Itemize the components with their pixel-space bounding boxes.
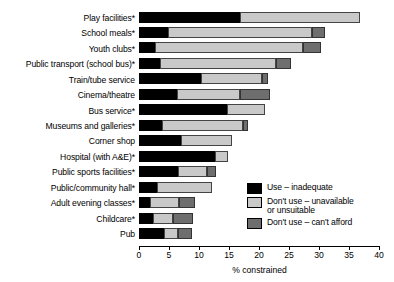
category-label: Hospital (with A&E)* xyxy=(0,152,135,162)
bar-row xyxy=(139,56,379,71)
legend-swatch xyxy=(247,197,262,208)
bar-row xyxy=(139,87,379,102)
bar-segment xyxy=(139,42,155,53)
legend-item: Don't use – unavailable or unsuitable xyxy=(247,197,391,216)
bar-segment xyxy=(139,120,162,131)
bar-segment xyxy=(139,27,168,38)
bar-row xyxy=(139,103,379,118)
bar-segment xyxy=(276,58,291,69)
bar-segment xyxy=(179,197,195,208)
bar-row xyxy=(139,10,379,25)
bar-segment xyxy=(139,197,150,208)
x-axis-title: % constrained xyxy=(139,265,380,275)
category-label: Pub xyxy=(0,229,135,239)
bar-segment xyxy=(215,151,228,162)
bar-segment xyxy=(139,89,177,100)
stacked-bar-chart: Play facilities*School meals*Youth clubs… xyxy=(0,0,394,282)
bar-row xyxy=(139,118,379,133)
bar-segment xyxy=(312,27,325,38)
category-label: Train/tube service xyxy=(0,75,135,85)
legend-label: Don't use – can't afford xyxy=(267,218,352,228)
legend-swatch xyxy=(247,218,262,229)
bar-segment xyxy=(139,213,153,224)
bar-segment xyxy=(227,104,265,115)
x-axis-tick-label: 0 xyxy=(124,250,154,261)
x-axis-tick-label: 15 xyxy=(214,250,244,261)
bar-row xyxy=(139,165,379,180)
category-label: Public/community hall* xyxy=(0,183,135,193)
category-label: Public transport (school bus)* xyxy=(0,59,135,69)
legend-label: Don't use – unavailable or unsuitable xyxy=(267,197,354,216)
bar-segment xyxy=(303,42,320,53)
bar-segment xyxy=(240,12,360,23)
x-axis-tick-label: 25 xyxy=(274,250,304,261)
x-axis-tick-label: 40 xyxy=(364,250,394,261)
x-axis-tick-label: 20 xyxy=(244,250,274,261)
bar-row xyxy=(139,149,379,164)
category-label: Corner shop xyxy=(0,136,135,146)
chart-legend: Use – inadequateDon't use – unavailable … xyxy=(247,183,391,232)
bar-row xyxy=(139,41,379,56)
bar-segment xyxy=(157,182,212,193)
category-label: Youth clubs* xyxy=(0,44,135,54)
category-label: Adult evening classes* xyxy=(0,198,135,208)
bar-segment xyxy=(155,42,303,53)
bar-segment xyxy=(240,89,270,100)
category-label: School meals* xyxy=(0,28,135,38)
bar-segment xyxy=(139,73,201,84)
bar-segment xyxy=(207,166,216,177)
bar-segment xyxy=(168,27,312,38)
bar-row xyxy=(139,25,379,40)
bar-segment xyxy=(139,58,160,69)
bar-segment xyxy=(139,12,240,23)
legend-item: Don't use – can't afford xyxy=(247,218,391,229)
category-label: Public sports facilities* xyxy=(0,167,135,177)
bar-segment xyxy=(139,151,215,162)
category-label: Play facilities* xyxy=(0,13,135,23)
bar-segment xyxy=(139,228,164,239)
bar-segment xyxy=(177,89,240,100)
category-label: Museums and galleries* xyxy=(0,121,135,131)
bar-segment xyxy=(150,197,179,208)
bar-segment xyxy=(178,228,192,239)
bar-row xyxy=(139,72,379,87)
bar-segment xyxy=(139,166,178,177)
bar-segment xyxy=(262,73,268,84)
bar-segment xyxy=(162,120,243,131)
bar-segment xyxy=(139,182,157,193)
bar-segment xyxy=(139,135,181,146)
category-label: Bus service* xyxy=(0,106,135,116)
bar-segment xyxy=(160,58,276,69)
bar-segment xyxy=(139,104,227,115)
bar-row xyxy=(139,134,379,149)
bar-segment xyxy=(201,73,262,84)
bar-segment xyxy=(153,213,173,224)
bar-segment xyxy=(173,213,193,224)
legend-item: Use – inadequate xyxy=(247,183,391,194)
legend-swatch xyxy=(247,183,262,194)
bar-segment xyxy=(178,166,207,177)
legend-label: Use – inadequate xyxy=(267,183,333,193)
bar-segment xyxy=(181,135,232,146)
x-axis-tick-label: 5 xyxy=(154,250,184,261)
bar-segment xyxy=(164,228,178,239)
x-axis-tick-label: 10 xyxy=(184,250,214,261)
category-label: Childcare* xyxy=(0,214,135,224)
x-axis-tick-label: 35 xyxy=(334,250,364,261)
category-axis-labels: Play facilities*School meals*Youth clubs… xyxy=(0,10,135,246)
category-label: Cinema/theatre xyxy=(0,90,135,100)
bar-segment xyxy=(243,120,248,131)
x-axis-tick-label: 30 xyxy=(304,250,334,261)
